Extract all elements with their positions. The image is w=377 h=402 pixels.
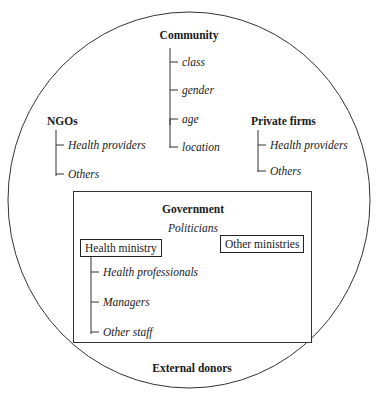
private-firms-title: Private firms bbox=[251, 115, 316, 128]
other-ministries-box: Other ministries bbox=[220, 235, 304, 253]
government-title: Government bbox=[162, 203, 224, 216]
health-ministry-item-other-staff: Other staff bbox=[103, 326, 153, 339]
ngos-item-others: Others bbox=[68, 168, 99, 181]
community-tree-extension bbox=[0, 0, 377, 402]
external-donors-title: External donors bbox=[152, 362, 232, 375]
private-firms-item-health-providers: Health providers bbox=[270, 139, 348, 152]
ngos-item-health-providers: Health providers bbox=[68, 139, 146, 152]
health-ministry-item-managers: Managers bbox=[103, 296, 150, 309]
government-subtitle: Politicians bbox=[168, 222, 218, 235]
health-ministry-item-health-professionals: Health professionals bbox=[103, 266, 198, 279]
private-firms-item-others: Others bbox=[270, 165, 301, 178]
health-ministry-box: Health ministry bbox=[80, 239, 162, 257]
ngos-title: NGOs bbox=[47, 115, 78, 128]
